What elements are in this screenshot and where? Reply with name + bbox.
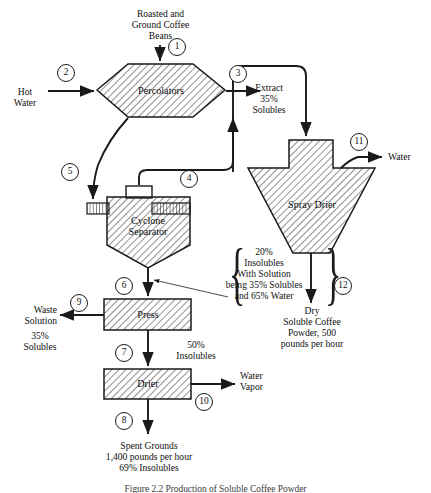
- flow-line-11: [341, 157, 382, 168]
- stream-number-12[interactable]: 12: [334, 277, 352, 295]
- label-press: Press: [108, 309, 188, 320]
- label-press-cake-composition: 50% Insolubles: [160, 339, 232, 361]
- stream-number-3[interactable]: 3: [229, 65, 247, 83]
- label-water-vapor: Water Vapor: [240, 370, 296, 392]
- brace-right: }: [325, 239, 341, 309]
- stream-number-10[interactable]: 10: [195, 393, 213, 411]
- label-waste-solution: Waste Solution: [2, 304, 57, 326]
- process-flow-diagram: Percolators Cyclone Separator Spray Drie…: [0, 0, 431, 493]
- label-dry-product: Dry Soluble Coffee Powder, 500 pounds pe…: [250, 305, 374, 349]
- label-feed-beans: Roasted and Ground Coffee Beans: [103, 8, 218, 41]
- stream-number-6[interactable]: 6: [115, 277, 133, 295]
- label-hot-water: Hot Water: [3, 86, 47, 108]
- label-extract: Extract 35% Solubles: [238, 82, 300, 115]
- stream-number-2[interactable]: 2: [57, 64, 75, 82]
- brace-left: {: [229, 239, 245, 309]
- stream-number-5[interactable]: 5: [61, 163, 79, 181]
- label-cyclone-separator: Cyclone Separator: [108, 215, 188, 237]
- label-spray-drier: Spray Drier: [272, 199, 352, 210]
- stream-number-8[interactable]: 8: [115, 412, 133, 430]
- label-water-out: Water: [388, 151, 431, 162]
- label-spent-grounds: Spent Grounds 1,400 pounds per hour 69% …: [68, 440, 230, 473]
- stream-number-4[interactable]: 4: [180, 170, 198, 188]
- label-drier: Drier: [108, 378, 188, 389]
- label-waste-solution-composition: 35% Solubles: [14, 330, 66, 352]
- figure-caption: Figure 2.2 Production of Soluble Coffee …: [0, 484, 431, 493]
- stream-number-1[interactable]: 1: [168, 38, 186, 56]
- label-percolators: Percolators: [121, 85, 201, 96]
- stream-number-7[interactable]: 7: [115, 344, 133, 362]
- label-insolubles-note: 20% Insolubles With Solution being 35% S…: [196, 246, 332, 301]
- stream-number-11[interactable]: 11: [350, 133, 368, 151]
- flow-line-5: [93, 118, 128, 199]
- stream-number-9[interactable]: 9: [70, 294, 88, 312]
